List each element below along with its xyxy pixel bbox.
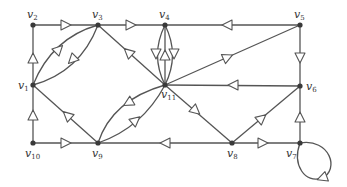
- arrows-layer: [28, 20, 328, 184]
- node-v6: [297, 83, 302, 88]
- node-label-v5: v5: [294, 8, 305, 22]
- node-label-v1: v1: [18, 79, 29, 93]
- edge-v11-to-v9: [98, 85, 165, 143]
- edge-v1-to-v3: [33, 25, 98, 85]
- arrowhead-icon: [258, 138, 268, 148]
- arrowhead-icon: [160, 138, 170, 148]
- arrowhead-icon: [61, 138, 71, 148]
- node-v9: [95, 140, 100, 145]
- node-label-v11: v11: [161, 88, 176, 102]
- node-v7: [297, 140, 302, 145]
- arrowhead-icon: [160, 50, 170, 60]
- directed-graph-diagram: v1v2v3v4v5v6v7v8v9v10v11: [0, 0, 347, 187]
- arrowhead-icon: [316, 172, 329, 185]
- node-v10: [30, 140, 35, 145]
- arrowhead-icon: [228, 80, 238, 90]
- node-v2: [30, 22, 35, 27]
- arrowhead-icon: [52, 42, 66, 56]
- node-label-v4: v4: [159, 8, 170, 22]
- node-label-v3: v3: [92, 8, 103, 22]
- arrowhead-icon: [151, 49, 161, 59]
- node-v5: [297, 22, 302, 27]
- node-v11: [162, 82, 167, 87]
- node-v3: [95, 22, 100, 27]
- node-label-v10: v10: [25, 147, 40, 161]
- nodes-layer: [30, 22, 302, 145]
- arrowhead-icon: [295, 112, 305, 122]
- arrowhead-icon: [126, 20, 136, 30]
- node-label-v2: v2: [27, 8, 38, 22]
- arrowhead-icon: [169, 49, 179, 59]
- arrowhead-icon: [28, 53, 38, 63]
- edge-v3-to-v1: [33, 25, 98, 85]
- arrowhead-icon: [221, 50, 234, 63]
- arrowhead-icon: [28, 110, 38, 120]
- node-label-v8: v8: [227, 147, 238, 161]
- arrowhead-icon: [295, 53, 305, 63]
- node-label-v9: v9: [92, 147, 103, 161]
- node-v4: [162, 22, 167, 27]
- node-v8: [229, 140, 234, 145]
- node-label-v6: v6: [306, 80, 317, 94]
- arrowhead-icon: [222, 20, 232, 30]
- edge-v9-to-v11: [98, 85, 165, 143]
- node-label-v7: v7: [286, 147, 297, 161]
- arrowhead-icon: [61, 20, 71, 30]
- node-v1: [30, 82, 35, 87]
